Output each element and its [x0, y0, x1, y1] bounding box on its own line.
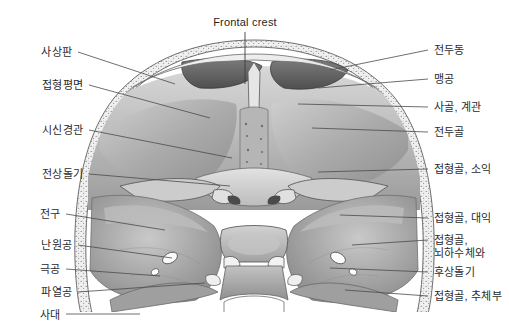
label-left-8: 사대 — [40, 309, 60, 322]
label-left-4: 전구 — [40, 208, 60, 221]
label-right-5: 접형골, 대익 — [434, 212, 492, 225]
label-right-0: 전두동 — [434, 44, 465, 57]
anatomical-figure: Frontal crest 사상판접형평면시신경관전상돌기전구난원공극공파열공사… — [0, 0, 509, 330]
label-right-7: 후상돌기 — [434, 266, 475, 279]
label-right-6: 접형골, 뇌하수체와 — [434, 234, 485, 260]
cribriform-plate — [240, 107, 268, 175]
label-left-2: 시신경관 — [42, 124, 83, 137]
label-left-1: 접형평면 — [42, 79, 83, 92]
label-left-6: 극공 — [40, 263, 60, 276]
cranial-base-illustration — [0, 0, 509, 330]
foramen-lacerum-left — [206, 274, 221, 285]
label-right-2: 사골, 계관 — [434, 101, 481, 114]
label-right-4: 접형골, 소익 — [434, 163, 492, 176]
label-left-0: 사상판 — [41, 46, 72, 59]
label-right-8: 접형골, 추체부 — [434, 290, 502, 303]
figure-title: Frontal crest — [185, 16, 305, 29]
label-right-1: 맹공 — [434, 73, 454, 86]
foramen-magnum — [224, 296, 284, 314]
label-left-7: 파열공 — [41, 286, 72, 299]
label-left-3: 전상돌기 — [42, 168, 83, 181]
hypophyseal-fossa — [228, 233, 280, 255]
label-right-3: 전두골 — [434, 126, 465, 139]
label-left-5: 난원공 — [41, 239, 72, 252]
foramen-lacerum-right — [288, 274, 303, 285]
crista-galli — [248, 62, 260, 110]
